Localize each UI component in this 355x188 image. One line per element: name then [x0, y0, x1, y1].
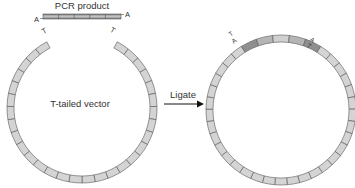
ring-segment: [298, 172, 312, 182]
ring-segment: [8, 119, 18, 133]
ring-segment: [287, 176, 300, 185]
ring-segment: [348, 97, 355, 110]
ring-segment: [69, 175, 82, 183]
ring-segment: [7, 93, 15, 106]
t-tailed-vector: T T T-tailed vector: [7, 25, 157, 183]
ring-segment: [149, 106, 157, 119]
pcr-product: PCR product A A: [34, 0, 130, 24]
ligate-arrow-head-icon: [197, 101, 204, 108]
ring-segment: [273, 35, 290, 42]
pcr-product-bar: [43, 14, 121, 19]
recombinant-plasmid: T A A T: [206, 30, 355, 185]
vector-ring-segments: [7, 42, 157, 183]
ring-segment: [7, 106, 15, 119]
ring-segment: [256, 35, 273, 45]
pcr-a-left: A: [34, 15, 39, 24]
vector-t-left: T: [40, 26, 49, 36]
ring-segment: [145, 81, 155, 95]
vector-label: T-tailed vector: [50, 98, 110, 109]
ligate-step: Ligate: [164, 89, 204, 108]
pcr-product-label: PCR product: [55, 0, 110, 11]
ring-segment: [206, 97, 214, 110]
ring-segment: [94, 172, 108, 182]
ring-segment: [345, 85, 355, 98]
ring-segment: [289, 35, 306, 45]
plasmid-ring-segments: [206, 35, 355, 185]
ring-segment: [207, 120, 217, 133]
ring-segment: [149, 93, 157, 106]
ring-segment: [82, 175, 95, 183]
ring-segment: [262, 176, 275, 185]
pcr-ta-cloning-diagram: PCR product A A T T T-tailed vector Liga…: [0, 0, 355, 188]
pcr-a-right: A: [125, 10, 130, 19]
junction-left-a: A: [230, 36, 238, 45]
ring-segment: [206, 109, 214, 121]
vector-t-right: T: [108, 25, 117, 35]
ring-segment: [348, 109, 355, 121]
ligate-label: Ligate: [170, 89, 196, 100]
ring-segment: [11, 130, 23, 144]
ring-segment: [275, 178, 287, 185]
